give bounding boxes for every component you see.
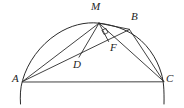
vertex-label-F: F bbox=[110, 42, 117, 53]
geometry-figure: M B F D A C bbox=[0, 0, 184, 108]
segment-MD bbox=[79, 23, 99, 57]
vertex-label-A: A bbox=[12, 73, 19, 84]
vertex-label-M: M bbox=[91, 1, 100, 12]
vertex-label-C: C bbox=[166, 73, 173, 84]
vertex-label-D: D bbox=[73, 59, 81, 70]
right-angle-marker bbox=[102, 28, 108, 34]
geometry-canvas bbox=[0, 0, 184, 108]
segment-MF bbox=[99, 23, 109, 41]
vertex-label-B: B bbox=[131, 11, 138, 22]
segment-AB bbox=[23, 30, 130, 82]
segment-MB bbox=[99, 23, 130, 29]
